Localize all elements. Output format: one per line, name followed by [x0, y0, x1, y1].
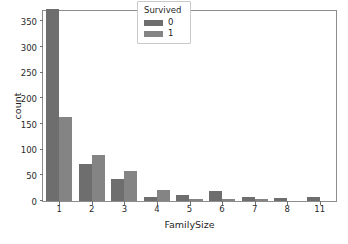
y-tick-label: 350 [21, 18, 37, 27]
x-tick-label: 1 [57, 205, 62, 214]
legend-title: Survived [144, 5, 184, 15]
bar-group [274, 11, 300, 201]
bar-group [111, 11, 137, 201]
bar-group [209, 11, 235, 201]
y-tick-mark [40, 149, 44, 150]
y-tick-mark [40, 46, 44, 47]
legend-entry: 1 [144, 28, 184, 39]
bar [46, 9, 59, 201]
x-tick-label: 3 [122, 205, 127, 214]
legend-label: 0 [168, 18, 173, 27]
y-tick-label: 150 [21, 121, 37, 130]
legend-swatch-icon [144, 20, 163, 26]
bar [307, 197, 320, 201]
bar [92, 155, 105, 201]
legend-label: 1 [168, 29, 173, 38]
y-tick-label: 50 [26, 172, 37, 181]
bar-group [46, 11, 72, 201]
y-tick-mark [40, 123, 44, 124]
y-tick-label: 0 [32, 198, 37, 207]
y-tick-label: 300 [21, 44, 37, 53]
bar [176, 195, 189, 201]
legend-entry: 0 [144, 17, 184, 28]
x-tick-label: 5 [187, 205, 192, 214]
bar [255, 199, 268, 201]
bar [157, 190, 170, 201]
legend: Survived 01 [137, 1, 191, 44]
bar-group [307, 11, 333, 201]
bar [274, 198, 287, 201]
legend-entries: 01 [144, 17, 184, 39]
x-tick-label: 7 [252, 205, 257, 214]
x-tick-label: 4 [154, 205, 159, 214]
y-tick-label: 100 [21, 146, 37, 155]
y-tick-label: 200 [21, 95, 37, 104]
bar [189, 199, 202, 201]
y-tick-mark [40, 20, 44, 21]
x-tick-label: 8 [284, 205, 289, 214]
legend-swatch-icon [144, 31, 163, 37]
y-tick-mark [40, 72, 44, 73]
bar [59, 117, 72, 201]
bar [209, 191, 222, 201]
bar [242, 197, 255, 201]
bar-group [242, 11, 268, 201]
x-tick-label: 6 [219, 205, 224, 214]
y-axis-label: count [13, 93, 23, 120]
bar [222, 199, 235, 201]
bar [79, 164, 92, 201]
bar [124, 171, 137, 201]
bar-group [79, 11, 105, 201]
x-axis-label: FamilySize [42, 220, 337, 230]
y-tick-mark [40, 174, 44, 175]
y-tick-label: 250 [21, 69, 37, 78]
y-tick-mark [40, 200, 44, 201]
x-tick-label: 2 [89, 205, 94, 214]
x-tick-label: 11 [314, 205, 325, 214]
bar [111, 179, 124, 201]
y-tick-mark [40, 97, 44, 98]
bar [144, 197, 157, 201]
chart-figure: 050100150200250300350 1234567811 count F… [0, 0, 348, 244]
